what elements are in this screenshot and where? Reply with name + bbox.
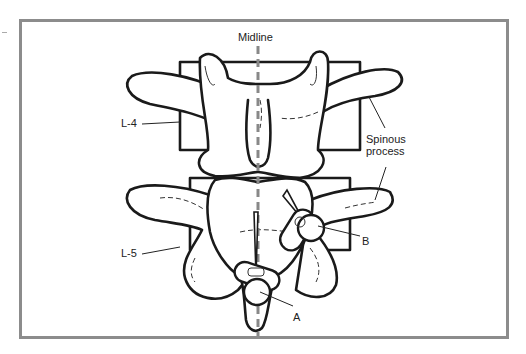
vertebrae-illustration [0,0,526,354]
l5-label: L-5 [121,247,137,260]
l5-lamina [207,178,312,331]
needle-a-label: A [293,311,300,324]
midline-label: Midline [238,31,273,44]
spinous-leader-top [369,97,385,128]
l5-leader [142,247,180,254]
spinous-process-label-line2: process [366,145,405,158]
l4-label: L-4 [121,117,137,130]
needle-b-label: B [362,235,369,248]
l4-leader [142,122,180,124]
